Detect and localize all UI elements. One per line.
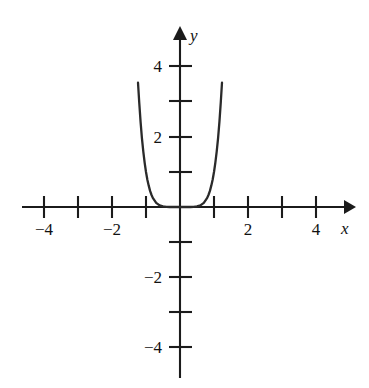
y-tick-label-2: 2	[154, 128, 163, 147]
x-axis-label: x	[340, 219, 349, 238]
coordinate-plane-svg: −4 −2 2 4 4 2 −2 −4 x y	[0, 0, 369, 388]
x-tick-label-2: 2	[244, 220, 253, 239]
y-tick-label--4: −4	[144, 338, 163, 357]
y-axis-arrowhead-icon	[173, 26, 187, 40]
x-tick-label-4: 4	[312, 220, 321, 239]
graph-figure: −4 −2 2 4 4 2 −2 −4 x y	[0, 0, 369, 388]
x-tick-label--2: −2	[103, 220, 121, 239]
x-axis-arrowhead-icon	[344, 200, 356, 214]
y-tick-label-4: 4	[154, 57, 163, 76]
y-axis-label: y	[188, 26, 198, 45]
x-tick-label--4: −4	[35, 220, 54, 239]
y-tick-label--2: −2	[144, 268, 162, 287]
